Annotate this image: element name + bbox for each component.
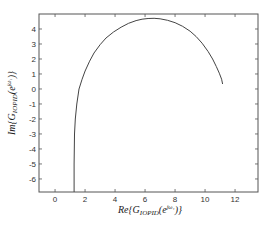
x-axis-ticks: 024681012 [53, 14, 240, 204]
y-tick-label: -5 [29, 160, 37, 169]
x-axis-label: Re{GIOPID(ejω₁)} [117, 204, 182, 217]
y-tick-label: 3 [32, 40, 37, 49]
y-tick-label: -6 [29, 175, 37, 184]
y-tick-label: -2 [29, 115, 37, 124]
x-tick-label: 4 [113, 195, 118, 204]
nyquist-curve [74, 18, 223, 192]
y-tick-label: 0 [32, 85, 37, 94]
nyquist-chart: 024681012 43210-1-2-3-4-5-6 Re{GIOPID(ej… [0, 0, 272, 228]
x-tick-label: 0 [53, 195, 58, 204]
y-axis-label: Im{GIOPID(ejω₁)} [6, 71, 19, 136]
y-tick-label: 4 [32, 25, 37, 34]
x-tick-label: 8 [173, 195, 178, 204]
y-axis-ticks: 43210-1-2-3-4-5-6 [29, 25, 258, 184]
x-tick-label: 6 [143, 195, 148, 204]
y-tick-label: -1 [29, 100, 37, 109]
y-tick-label: -4 [29, 145, 37, 154]
y-tick-label: 1 [32, 70, 37, 79]
x-tick-label: 10 [201, 195, 210, 204]
plot-frame [39, 14, 258, 192]
x-tick-label: 2 [83, 195, 88, 204]
x-tick-label: 12 [231, 195, 240, 204]
y-tick-label: 2 [32, 55, 37, 64]
y-tick-label: -3 [29, 130, 37, 139]
